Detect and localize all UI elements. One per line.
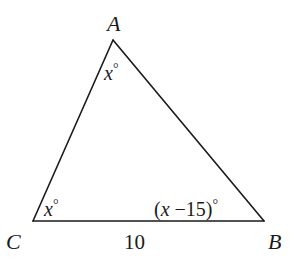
angle-label-c: x° bbox=[43, 197, 59, 220]
degree-icon: ° bbox=[113, 61, 119, 76]
vertex-label-c: C bbox=[6, 229, 21, 254]
degree-icon: ° bbox=[213, 197, 219, 212]
side-ca bbox=[33, 40, 113, 221]
angle-label-b: (x −15)° bbox=[154, 197, 218, 221]
vertex-label-a: A bbox=[105, 11, 121, 36]
triangle-diagram: A C B 10 x° x° (x −15)° bbox=[0, 0, 294, 261]
angle-label-a: x° bbox=[103, 61, 119, 84]
angle-b-expression: −15) bbox=[170, 198, 213, 221]
angle-c-variable: x bbox=[43, 198, 53, 220]
degree-icon: ° bbox=[53, 197, 59, 212]
vertex-label-b: B bbox=[268, 229, 281, 254]
angle-a-variable: x bbox=[103, 62, 113, 84]
side-label-cb: 10 bbox=[124, 230, 145, 254]
angle-b-variable: x bbox=[160, 198, 170, 220]
side-ab bbox=[113, 40, 264, 221]
